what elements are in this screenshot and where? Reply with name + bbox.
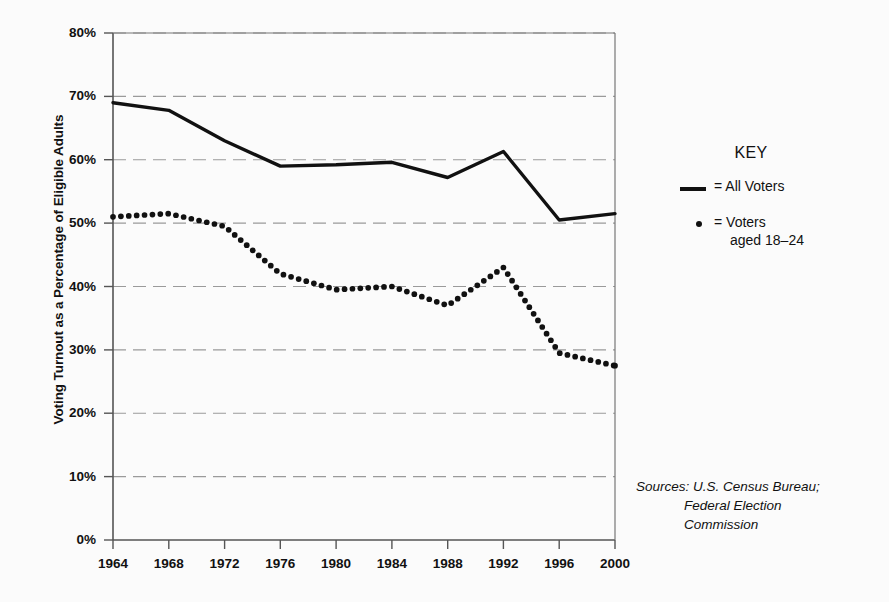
y-tick-label-0: 0% — [40, 532, 96, 547]
x-axis-ticks — [113, 540, 615, 549]
line-swatch-icon — [680, 187, 706, 191]
legend-label-young-voters-line2: aged 18–24 — [730, 232, 804, 248]
sources-note: Sources: U.S. Census Bureau; Federal Ele… — [636, 477, 886, 534]
dot-swatch-icon — [696, 221, 702, 227]
y-tick-label-70: 70% — [40, 88, 96, 103]
gridlines — [113, 33, 615, 477]
legend-entry-all-voters: = All Voters — [640, 178, 880, 198]
y-tick-label-20: 20% — [40, 405, 96, 420]
x-tick-label-1968: 1968 — [139, 556, 199, 571]
x-tick-label-1976: 1976 — [250, 556, 310, 571]
x-tick-label-1992: 1992 — [473, 556, 533, 571]
legend-entry-young-voters: = Voters aged 18–24 — [640, 214, 880, 234]
y-tick-label-10: 10% — [40, 469, 96, 484]
y-tick-label-80: 80% — [40, 25, 96, 40]
y-tick-label-50: 50% — [40, 215, 96, 230]
sources-line-1: Sources: U.S. Census Bureau; — [636, 477, 886, 496]
y-tick-label-40: 40% — [40, 279, 96, 294]
y-axis-ticks — [104, 33, 113, 540]
chart-page: .gl { stroke: #9a9a9a; stroke-width: 1.1… — [0, 0, 889, 602]
series-dots-voters-18-24 — [110, 211, 618, 369]
legend-title: KEY — [676, 144, 826, 162]
x-tick-label-1984: 1984 — [362, 556, 422, 571]
y-tick-label-30: 30% — [40, 342, 96, 357]
legend-label-young-voters: = Voters — [714, 214, 766, 230]
x-tick-label-1972: 1972 — [195, 556, 255, 571]
x-tick-label-1980: 1980 — [306, 556, 366, 571]
x-tick-label-2000: 2000 — [585, 556, 645, 571]
series-line-all-voters — [113, 103, 615, 220]
x-tick-label-1964: 1964 — [83, 556, 143, 571]
sources-line-2: Federal Election — [636, 496, 886, 515]
chart-legend: KEY = All Voters = Voters aged 18–24 — [640, 144, 880, 234]
y-tick-label-60: 60% — [40, 152, 96, 167]
legend-label-all-voters: = All Voters — [714, 178, 784, 194]
x-tick-label-1988: 1988 — [418, 556, 478, 571]
sources-line-3: Commission — [636, 515, 886, 534]
x-tick-label-1996: 1996 — [529, 556, 589, 571]
